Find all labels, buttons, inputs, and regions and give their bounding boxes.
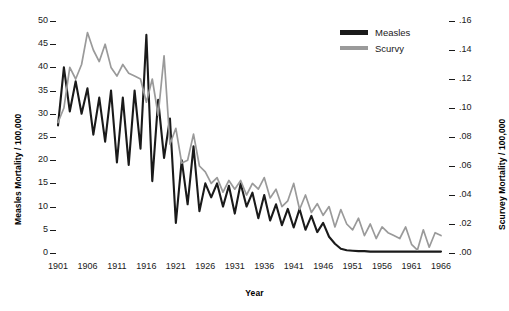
y-right-tick-mark [449, 50, 455, 51]
legend-label-measles: Measles [375, 27, 410, 38]
y-right-tick-.00: .00 [459, 247, 489, 257]
y-left-tick-mark [50, 91, 56, 92]
y-left-tick-45: 45 [22, 38, 48, 48]
y-left-tick-mark [50, 160, 56, 161]
legend-item-scurvy[interactable]: Scurvy [340, 40, 410, 56]
y-right-tick-.06: .06 [459, 160, 489, 170]
y-left-tick-50: 50 [22, 15, 48, 25]
legend-label-scurvy: Scurvy [375, 43, 404, 54]
y-right-tick-.02: .02 [459, 218, 489, 228]
y-left-tick-mark [50, 137, 56, 138]
y-axis-left-title: Measles Mortality / 100,000 [13, 114, 23, 225]
x-axis-title: Year [0, 288, 509, 298]
y-left-tick-20: 20 [22, 154, 48, 164]
y-right-tick-mark [449, 137, 455, 138]
y-left-tick-mark [50, 21, 56, 22]
y-left-tick-40: 40 [22, 61, 48, 71]
y-right-tick-mark [449, 21, 455, 22]
y-left-tick-0: 0 [22, 247, 48, 257]
y-axis-right-title: Scurvey Mortality / 100,000 [497, 119, 507, 230]
mortality-line-chart: 05101520253035404550 .00.02.04.06.08.10.… [0, 0, 509, 311]
y-left-tick-mark [50, 207, 56, 208]
legend-swatch-scurvy-icon [340, 46, 368, 50]
y-right-tick-.14: .14 [459, 44, 489, 54]
y-left-tick-30: 30 [22, 108, 48, 118]
y-right-tick-.04: .04 [459, 189, 489, 199]
chart-legend: Measles Scurvy [340, 24, 410, 56]
y-left-tick-mark [50, 114, 56, 115]
y-right-tick-mark [449, 108, 455, 109]
y-left-tick-35: 35 [22, 85, 48, 95]
legend-item-measles[interactable]: Measles [340, 24, 410, 40]
y-right-tick-mark [449, 195, 455, 196]
y-left-tick-10: 10 [22, 201, 48, 211]
y-right-tick-.10: .10 [459, 102, 489, 112]
x-tick-1966: 1966 [421, 261, 461, 271]
legend-swatch-measles-icon [340, 30, 368, 35]
y-left-tick-mark [50, 230, 56, 231]
y-left-tick-mark [50, 67, 56, 68]
y-right-tick-mark [449, 79, 455, 80]
y-right-tick-.12: .12 [459, 73, 489, 83]
y-right-tick-mark [449, 166, 455, 167]
y-right-tick-mark [449, 224, 455, 225]
y-left-tick-25: 25 [22, 131, 48, 141]
series-line-measles [58, 35, 441, 252]
y-left-tick-mark [50, 44, 56, 45]
y-left-tick-15: 15 [22, 177, 48, 187]
y-right-tick-.16: .16 [459, 15, 489, 25]
y-left-tick-mark [50, 253, 56, 254]
y-left-tick-5: 5 [22, 224, 48, 234]
y-left-tick-mark [50, 183, 56, 184]
y-right-tick-.08: .08 [459, 131, 489, 141]
y-right-tick-mark [449, 253, 455, 254]
